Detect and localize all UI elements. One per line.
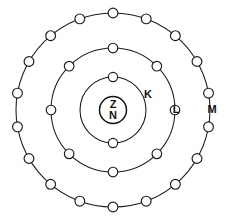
electron-k-1 bbox=[108, 72, 117, 81]
electron-l-6 bbox=[64, 149, 74, 159]
electron-m-6 bbox=[204, 122, 214, 132]
electron-m-10 bbox=[108, 202, 118, 212]
electron-l-2 bbox=[152, 61, 162, 71]
nucleus-label-n: N bbox=[109, 109, 117, 121]
electron-m-3 bbox=[170, 31, 180, 41]
shell-label-l: L bbox=[173, 103, 180, 115]
atom-diagram-canvas: ZN KLM bbox=[0, 0, 228, 216]
electron-l-4 bbox=[152, 149, 162, 159]
electron-l-1 bbox=[108, 43, 118, 53]
electron-k-2 bbox=[108, 138, 117, 147]
electron-m-11 bbox=[75, 196, 85, 206]
electron-m-16 bbox=[24, 57, 34, 67]
electron-m-5 bbox=[204, 88, 214, 98]
shell-label-k: K bbox=[144, 88, 152, 100]
electron-l-5 bbox=[108, 167, 118, 177]
electron-m-15 bbox=[13, 88, 23, 98]
electron-m-4 bbox=[192, 57, 202, 67]
shell-label-m: M bbox=[207, 103, 216, 115]
electron-m-9 bbox=[141, 196, 151, 206]
electron-m-2 bbox=[141, 14, 151, 24]
electron-m-8 bbox=[170, 179, 180, 189]
electron-m-18 bbox=[75, 14, 85, 24]
electron-m-14 bbox=[13, 122, 23, 132]
electron-m-17 bbox=[46, 31, 56, 41]
electron-l-8 bbox=[64, 61, 74, 71]
electron-l-7 bbox=[46, 105, 56, 115]
electron-m-1 bbox=[108, 8, 118, 18]
electron-m-13 bbox=[24, 154, 34, 164]
bohr-atom-diagram: ZN KLM bbox=[0, 0, 228, 216]
electron-m-12 bbox=[46, 179, 56, 189]
electron-m-7 bbox=[192, 154, 202, 164]
nucleus-group: ZN bbox=[100, 97, 127, 124]
